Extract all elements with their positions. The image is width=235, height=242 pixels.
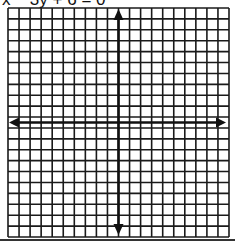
x-axis-right-arrow-icon xyxy=(216,118,226,128)
coordinate-grid xyxy=(0,0,235,242)
x-axis-left-arrow-icon xyxy=(9,118,19,128)
y-axis-up-arrow-icon xyxy=(114,9,124,20)
y-axis-down-arrow-icon xyxy=(114,224,124,235)
bottom-divider xyxy=(0,239,235,241)
